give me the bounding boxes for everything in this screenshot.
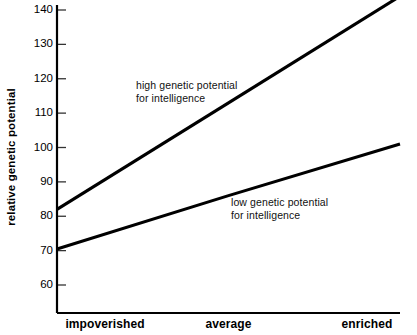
x-axis-category-labels: impoverishedaverageenriched [0, 317, 417, 335]
series-annotation-high-line2: for intelligence [136, 92, 237, 105]
series-annotation-low-line2: for intelligence [231, 209, 328, 222]
x-axis-label-impoverished: impoverished [65, 317, 144, 331]
series-annotation-low-line1: low genetic potential [231, 196, 328, 209]
series-annotation-low: low genetic potential for intelligence [231, 196, 328, 223]
plot-area [0, 0, 417, 335]
series-line-low [57, 144, 400, 249]
series-annotation-high: high genetic potential for intelligence [136, 79, 237, 106]
series-annotation-high-line1: high genetic potential [136, 79, 237, 92]
x-axis-label-enriched: enriched [342, 317, 393, 331]
chart-figure: relative genetic potential 6070809010011… [0, 0, 417, 335]
x-axis-label-average: average [205, 317, 251, 331]
